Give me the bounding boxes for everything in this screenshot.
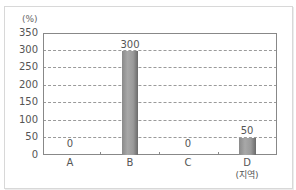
value-label-c: 0 <box>168 139 208 149</box>
x-tick <box>100 152 101 155</box>
y-tick-label: 0 <box>2 150 38 160</box>
x-tick <box>159 152 160 155</box>
x-label-a: A <box>50 158 90 168</box>
value-label-a: 0 <box>50 139 90 149</box>
y-tick-label: 200 <box>2 80 38 90</box>
y-axis-unit: (%) <box>22 14 38 24</box>
plot-area <box>43 33 277 155</box>
x-axis-unit: (지역) <box>227 170 267 180</box>
y-tick-label: 50 <box>2 132 38 142</box>
y-tick-label: 300 <box>2 45 38 55</box>
y-tick-label: 150 <box>2 97 38 107</box>
bar-d <box>239 138 256 155</box>
value-label-b: 300 <box>110 40 150 50</box>
value-label-d: 50 <box>227 126 267 136</box>
x-label-b: B <box>110 158 150 168</box>
bar-b <box>122 51 138 155</box>
x-label-c: C <box>168 158 208 168</box>
y-tick-label: 350 <box>2 28 38 38</box>
y-tick-label: 100 <box>2 115 38 125</box>
y-tick-label: 250 <box>2 62 38 72</box>
x-label-d: D <box>227 158 267 168</box>
x-tick <box>218 152 219 155</box>
